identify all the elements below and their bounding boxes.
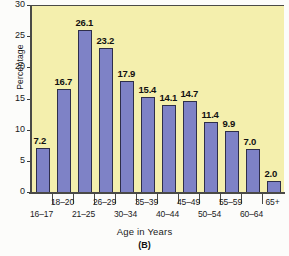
y-axis-tick-label: 25 bbox=[15, 30, 25, 41]
y-axis-line bbox=[30, 5, 32, 193]
x-axis-tick-label: 40–44 bbox=[156, 209, 179, 219]
x-axis-tick-label: 35–39 bbox=[135, 197, 158, 207]
bar-value-label: 23.2 bbox=[97, 35, 115, 46]
bar-chart-figure: Percentage 051015202530 7.216.726.123.21… bbox=[0, 0, 289, 256]
y-axis-tick: 5 bbox=[0, 161, 31, 162]
bar bbox=[183, 101, 197, 193]
y-axis-tick-label: 10 bbox=[15, 124, 25, 135]
bar bbox=[225, 131, 239, 193]
y-axis-tick-label: 30 bbox=[15, 0, 25, 10]
y-axis-tick: 20 bbox=[0, 67, 31, 68]
bar-value-label: 14.7 bbox=[181, 88, 199, 99]
y-axis-tick-label: 20 bbox=[15, 61, 25, 72]
bar bbox=[141, 97, 155, 193]
x-axis-tick-label: 18–20 bbox=[51, 197, 74, 207]
bar-value-label: 16.7 bbox=[55, 76, 73, 87]
y-axis-tick: 15 bbox=[0, 99, 31, 100]
bar-value-label: 15.4 bbox=[139, 84, 157, 95]
y-axis-tick-label: 5 bbox=[20, 155, 25, 166]
y-axis-tick-label: 0 bbox=[20, 186, 25, 197]
bar-value-label: 14.1 bbox=[160, 92, 178, 103]
x-axis-tick-label: 16–17 bbox=[30, 209, 53, 219]
bar-value-label: 7.0 bbox=[244, 136, 257, 147]
plot-area bbox=[31, 5, 284, 193]
bar-value-label: 17.9 bbox=[118, 68, 136, 79]
x-axis-tick-mark bbox=[262, 193, 263, 204]
y-axis-tick: 0 bbox=[0, 192, 31, 193]
y-axis-tick: 25 bbox=[0, 36, 31, 37]
bar bbox=[246, 149, 260, 193]
bar bbox=[204, 122, 218, 193]
x-axis-tick-label: 26–29 bbox=[93, 197, 116, 207]
x-axis-tick-label: 65+ bbox=[265, 197, 279, 207]
figure-caption: (B) bbox=[0, 240, 289, 250]
bar bbox=[78, 30, 92, 193]
y-axis-tick: 10 bbox=[0, 130, 31, 131]
bar-value-label: 7.2 bbox=[34, 135, 47, 146]
x-axis-tick-label: 50–54 bbox=[198, 209, 221, 219]
x-axis-tick-label: 30–34 bbox=[114, 209, 137, 219]
bar bbox=[120, 81, 134, 193]
y-axis-tick: 30 bbox=[0, 5, 31, 6]
bar-value-label: 9.9 bbox=[223, 118, 236, 129]
bar-value-label: 11.4 bbox=[202, 109, 219, 120]
x-axis-tick-label: 60–64 bbox=[240, 209, 263, 219]
x-axis-title: Age in Years bbox=[0, 226, 289, 237]
bar-value-label: 2.0 bbox=[265, 168, 278, 179]
bar bbox=[57, 89, 71, 193]
bar bbox=[99, 48, 113, 193]
bar bbox=[162, 105, 176, 193]
x-axis-tick-label: 55–59 bbox=[219, 197, 242, 207]
bar-value-label: 26.1 bbox=[76, 17, 94, 28]
x-axis-tick-label: 21–25 bbox=[72, 209, 95, 219]
y-axis-tick-label: 15 bbox=[15, 93, 25, 104]
x-axis-tick-label: 45–49 bbox=[177, 197, 200, 207]
bar bbox=[36, 148, 50, 193]
